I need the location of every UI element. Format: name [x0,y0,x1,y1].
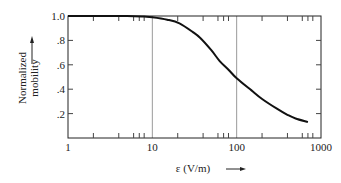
y-tick-label: .6 [57,59,66,71]
y-tick-label: .2 [57,108,65,120]
x-tick-labels: 1101001000 [65,141,332,153]
y-axis-title-group: Normalized mobility [16,52,40,104]
y-axis-title-line1: Normalized [16,52,28,104]
x-ticks [93,16,312,138]
y-tick-label: .4 [57,83,66,95]
series-line-normalized-mobility [68,16,308,122]
y-axis-arrow-icon [30,36,34,43]
x-tick-label: 1000 [310,141,333,153]
x-tick-label: 1 [65,141,71,153]
y-axis-title-line2: mobility [28,59,40,97]
y-tick-label: 1.0 [51,10,65,22]
y-ticks [68,40,321,113]
x-axis-arrow-icon [240,167,246,171]
x-tick-label: 100 [228,141,245,153]
mobility-chart: 1101001000 .2.4.6.81.0 ε (V/m) Normalize… [0,0,341,183]
x-tick-label: 10 [147,141,159,153]
y-tick-labels: .2.4.6.81.0 [51,10,65,120]
y-tick-label: .8 [57,34,66,46]
x-axis-title: ε (V/m) [176,162,211,175]
